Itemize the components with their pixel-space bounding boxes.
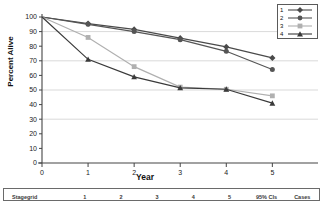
plot-area: 0102030405060708090100 012345 Percent Al… (0, 0, 323, 186)
svg-text:10: 10 (29, 145, 37, 152)
table-header-cell: Cases (286, 194, 320, 200)
legend-item[interactable]: 1 (280, 6, 315, 14)
legend-item[interactable]: 3 (280, 22, 315, 30)
svg-text:80: 80 (29, 43, 37, 50)
legend-item[interactable]: 2 (280, 14, 315, 22)
svg-text:0: 0 (33, 159, 37, 166)
table-header-cell: 3 (139, 194, 175, 200)
series-4 (42, 17, 275, 106)
table-header-cell: Stagegrid (4, 194, 67, 200)
svg-text:30: 30 (29, 116, 37, 123)
x-axis-label: Year (0, 172, 290, 182)
survival-plot: 0102030405060708090100 012345 (0, 0, 323, 186)
legend-swatch-triangle-icon (287, 30, 315, 38)
legend-label: 4 (280, 30, 285, 38)
table-header-cell: 95% CIs (248, 194, 286, 200)
table-header-cell: 4 (175, 194, 211, 200)
series-2 (42, 17, 275, 72)
legend-swatch-square-icon (287, 22, 315, 30)
series-1 (42, 17, 275, 61)
gridlines (42, 32, 318, 120)
table-header-cell: 2 (103, 194, 139, 200)
legend-item[interactable]: 4 (280, 30, 315, 38)
legend-swatch-circle-icon (287, 14, 315, 22)
risk-table: Stagegrid 1 2 3 4 5 95% CIs Cases (3, 188, 320, 201)
svg-text:70: 70 (29, 57, 37, 64)
series-3 (42, 17, 275, 98)
table-header-row: Stagegrid 1 2 3 4 5 95% CIs Cases (4, 189, 319, 200)
svg-text:50: 50 (29, 86, 37, 93)
legend-label: 2 (280, 14, 285, 22)
y-tick-labels: 0102030405060708090100 (25, 13, 37, 166)
chart-page: 0102030405060708090100 012345 Percent Al… (0, 0, 323, 202)
svg-text:20: 20 (29, 130, 37, 137)
y-axis-label: Percent Alive (6, 14, 15, 110)
svg-text:60: 60 (29, 72, 37, 79)
legend-label: 1 (280, 6, 285, 14)
svg-text:100: 100 (25, 13, 37, 20)
axes (38, 14, 318, 167)
svg-text:90: 90 (29, 28, 37, 35)
legend-label: 3 (280, 22, 285, 30)
legend-swatch-diamond-icon (287, 6, 315, 14)
table-header-cell: 1 (67, 194, 103, 200)
data-series-group (42, 17, 275, 106)
svg-text:40: 40 (29, 101, 37, 108)
table-header-cell: 5 (211, 194, 247, 200)
chart-legend[interactable]: 1 2 3 4 (277, 4, 318, 39)
